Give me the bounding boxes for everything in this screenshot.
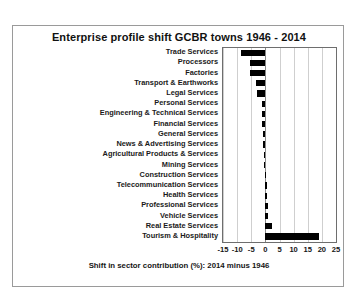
category-label: Mining Services — [21, 160, 218, 170]
category-label: Processors — [21, 57, 218, 67]
chart-title: Enterprise profile shift GCBR towns 1946… — [13, 31, 345, 43]
bar — [256, 80, 265, 86]
bar — [262, 121, 265, 127]
bar-row — [223, 232, 336, 242]
category-label: News & Advertising Services — [21, 139, 218, 149]
category-axis-labels: Trade ServicesProcessorsFactoriesTranspo… — [21, 47, 218, 243]
bar-row — [223, 211, 336, 221]
chart-frame: Enterprise profile shift GCBR towns 1946… — [12, 25, 344, 287]
bar — [263, 131, 266, 137]
x-tick-label: -10 — [232, 245, 243, 254]
bar-row — [223, 181, 336, 191]
x-tick-label: 10 — [289, 245, 297, 254]
bar-row — [223, 130, 336, 140]
bar-row — [223, 171, 336, 181]
bar — [241, 50, 265, 56]
x-tick-label: 5 — [277, 245, 281, 254]
bar — [250, 70, 266, 76]
x-axis-tick-labels: -15-10-50510152025 — [222, 245, 337, 258]
bar — [265, 233, 319, 239]
category-label: Health Services — [21, 190, 218, 200]
bar-row — [223, 140, 336, 150]
category-label: Real Estate Services — [21, 221, 218, 231]
x-tick-label: 20 — [318, 245, 326, 254]
bar-row — [223, 222, 336, 232]
plot-area — [222, 47, 337, 243]
category-label: Legal Services — [21, 88, 218, 98]
bar-row — [223, 79, 336, 89]
category-label: General Services — [21, 129, 218, 139]
bar-row — [223, 89, 336, 99]
bar-row — [223, 99, 336, 109]
bar — [262, 111, 265, 117]
gridline-25 — [336, 48, 337, 242]
bar — [265, 182, 266, 188]
bar — [263, 141, 266, 147]
bar-row — [223, 201, 336, 211]
category-label: Personal Services — [21, 98, 218, 108]
category-label: Professional Services — [21, 200, 218, 210]
bar-row — [223, 119, 336, 129]
bar-row — [223, 109, 336, 119]
x-axis-title: Shift in sector contribution (%): 2014 m… — [13, 261, 345, 270]
bar-row — [223, 160, 336, 170]
category-label: Trade Services — [21, 47, 218, 57]
category-label: Agricultural Products & Services — [21, 149, 218, 159]
bar — [265, 203, 268, 209]
x-tick-label: 25 — [332, 245, 340, 254]
category-label: Engineering & Technical Services — [21, 108, 218, 118]
bar — [264, 162, 265, 168]
category-label: Vehicle Services — [21, 211, 218, 221]
category-label: Tourism & Hospitality — [21, 231, 218, 241]
bar-row — [223, 48, 336, 58]
bar — [262, 101, 266, 107]
bar — [250, 60, 266, 66]
category-label: Construction Services — [21, 170, 218, 180]
bar — [265, 223, 271, 229]
category-label: Transport & Earthworks — [21, 78, 218, 88]
bar — [264, 152, 266, 158]
x-tick-label: 0 — [263, 245, 267, 254]
bar — [265, 213, 268, 219]
bar — [257, 90, 265, 96]
bar — [265, 172, 266, 178]
x-tick-label: 15 — [304, 245, 312, 254]
bar-row — [223, 150, 336, 160]
bar — [265, 193, 267, 199]
x-tick-label: -5 — [248, 245, 255, 254]
category-label: Telecommunication Services — [21, 180, 218, 190]
bar-row — [223, 191, 336, 201]
bar-row — [223, 68, 336, 78]
bar-row — [223, 58, 336, 68]
category-label: Financial Services — [21, 119, 218, 129]
category-label: Factories — [21, 68, 218, 78]
x-tick-label: -15 — [218, 245, 229, 254]
